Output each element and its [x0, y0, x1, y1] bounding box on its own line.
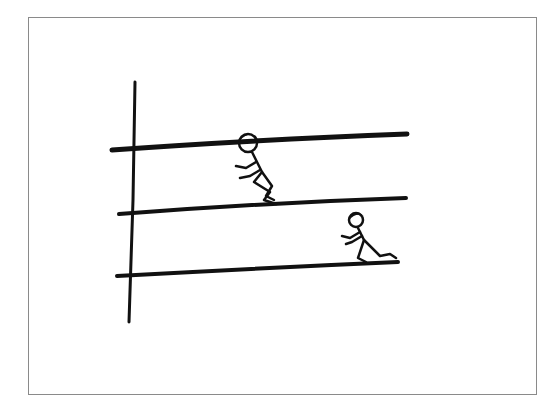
bar-middle: [119, 198, 406, 214]
crouching-figure: [236, 134, 276, 204]
vertical-pole: [129, 82, 135, 322]
bar-bottom: [117, 262, 398, 276]
sketch-canvas: [0, 0, 556, 413]
crawling-figure: [342, 213, 396, 262]
bar-top: [112, 134, 407, 150]
